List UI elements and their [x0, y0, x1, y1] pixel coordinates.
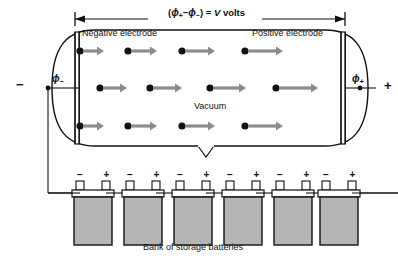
- battery-cell: [172, 181, 214, 245]
- electron-velocity-arrow-head: [208, 121, 215, 130]
- physics-diagram-canvas: (ϕ+−ϕ−) = V volts Negative electrode Pos…: [0, 0, 398, 265]
- electron-dot: [206, 84, 213, 91]
- left-potential-label: ϕ−: [52, 74, 64, 85]
- vacuum-label: Vacuum: [194, 102, 226, 111]
- battery-body: [320, 197, 358, 245]
- electron-group: [241, 121, 283, 130]
- battery-positive-terminal-post: [348, 181, 356, 190]
- electron-group: [76, 121, 104, 130]
- left-terminal-node: [46, 86, 51, 91]
- battery-negative-sign: −: [323, 170, 329, 180]
- electron-dot: [146, 84, 153, 91]
- electron-dot: [96, 84, 103, 91]
- electron-dot: [178, 47, 185, 54]
- electron-velocity-arrow-head: [120, 83, 127, 92]
- battery-positive-sign: +: [104, 170, 110, 180]
- electron-group: [272, 83, 318, 92]
- electron-group: [178, 46, 215, 55]
- battery-negative-terminal-post: [126, 181, 134, 190]
- electron-group: [206, 83, 246, 92]
- electron-group: [96, 83, 127, 92]
- dimension-equals: =: [206, 7, 212, 18]
- electron-dot: [76, 47, 83, 54]
- electron-velocity-arrow-head: [150, 121, 157, 130]
- battery-negative-terminal-post: [322, 181, 330, 190]
- tube-bottom-notch: [198, 146, 214, 157]
- positive-electrode-label: Positive electrode: [252, 29, 323, 38]
- electron-group: [146, 83, 182, 92]
- battery-positive-terminal-post: [302, 181, 310, 190]
- electron-velocity-arrow-head: [97, 121, 104, 130]
- electron-dot: [241, 47, 248, 54]
- electron-group: [76, 46, 104, 55]
- battery-negative-sign: −: [227, 170, 233, 180]
- electron-dot: [124, 47, 131, 54]
- battery-positive-terminal-post: [102, 181, 110, 190]
- battery-positive-sign: +: [154, 170, 160, 180]
- battery-negative-terminal-post: [76, 181, 84, 190]
- battery-negative-sign: −: [177, 170, 183, 180]
- right-potential-subscript: +: [360, 77, 364, 86]
- left-potential-subscript: −: [60, 77, 64, 86]
- electron-dot: [76, 122, 83, 129]
- electron-dot: [124, 122, 131, 129]
- electron-velocity-arrow-head: [276, 121, 283, 130]
- battery-body: [224, 197, 262, 245]
- electron-velocity-arrow-head: [239, 83, 246, 92]
- battery-positive-terminal-post: [252, 181, 260, 190]
- dimension-units: volts: [223, 7, 245, 18]
- battery-positive-sign: +: [304, 170, 310, 180]
- battery-positive-sign: +: [350, 170, 356, 180]
- dimension-close-paren: ): [200, 7, 203, 18]
- dimension-label: (ϕ+−ϕ−) = V volts: [168, 8, 245, 20]
- right-terminal-sign: +: [384, 79, 392, 92]
- battery-cell: [72, 181, 114, 245]
- negative-electrode-label: Negative electrode: [82, 29, 157, 38]
- battery-body: [274, 197, 312, 245]
- electron-group: [241, 46, 283, 55]
- battery-negative-sign: −: [77, 170, 83, 180]
- electron-dot: [272, 84, 279, 91]
- electron-velocity-arrow-head: [150, 46, 157, 55]
- battery-cell: [272, 181, 314, 245]
- left-terminal-sign: −: [16, 78, 24, 91]
- electron-velocity-arrow-head: [208, 46, 215, 55]
- electron-group: [124, 46, 157, 55]
- electron-group: [124, 121, 157, 130]
- battery-cell: [222, 181, 264, 245]
- electron-velocity-arrow-head: [311, 83, 318, 92]
- battery-negative-terminal-post: [276, 181, 284, 190]
- electron-dot: [241, 122, 248, 129]
- battery-positive-sign: +: [254, 170, 260, 180]
- dimension-phi-plus: ϕ: [171, 7, 179, 18]
- diagram-vector-layer: [0, 0, 398, 265]
- electron-group: [178, 121, 215, 130]
- electron-motion-layer: [76, 46, 318, 130]
- dimension-v-symbol: V: [214, 7, 220, 18]
- right-potential-label: ϕ+: [352, 74, 364, 85]
- battery-body: [124, 197, 162, 245]
- electron-velocity-arrow-head: [175, 83, 182, 92]
- dimension-arrow-left: [75, 16, 85, 23]
- electron-dot: [178, 122, 185, 129]
- battery-bank-layer: [48, 181, 398, 245]
- electron-velocity-arrow-head: [97, 46, 104, 55]
- positive-electrode-plate: [341, 32, 345, 144]
- battery-negative-terminal-post: [176, 181, 184, 190]
- battery-cell: [318, 181, 360, 245]
- left-potential-symbol: ϕ: [52, 73, 60, 84]
- battery-bank-caption: Bank of storage batteries: [143, 243, 243, 252]
- electron-velocity-arrow-head: [276, 46, 283, 55]
- battery-positive-terminal-post: [202, 181, 210, 190]
- battery-negative-sign: −: [277, 170, 283, 180]
- battery-positive-terminal-post: [152, 181, 160, 190]
- battery-body: [174, 197, 212, 245]
- battery-negative-terminal-post: [226, 181, 234, 190]
- right-terminal-node: [358, 86, 363, 91]
- battery-positive-sign: +: [204, 170, 210, 180]
- battery-cell: [122, 181, 164, 245]
- battery-negative-sign: −: [127, 170, 133, 180]
- right-potential-symbol: ϕ: [352, 73, 360, 84]
- battery-body: [74, 197, 112, 245]
- dimension-phi-minus: ϕ: [188, 7, 196, 18]
